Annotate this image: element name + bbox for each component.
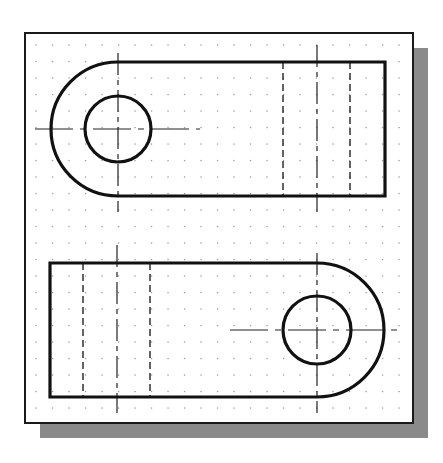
grid-dot [217, 127, 218, 128]
grid-dot [283, 44, 284, 45]
grid-dot [299, 143, 300, 144]
grid-dot [233, 143, 234, 144]
grid-dot [200, 407, 201, 408]
grid-dot [134, 226, 135, 227]
grid-dot [250, 374, 251, 375]
grid-dot [349, 374, 350, 375]
grid-dot [299, 44, 300, 45]
grid-dot [233, 94, 234, 95]
grid-dot [200, 110, 201, 111]
grid-dot [217, 341, 218, 342]
grid-dot [52, 226, 53, 227]
grid-dot [85, 110, 86, 111]
grid-dot [266, 110, 267, 111]
grid-dot [349, 242, 350, 243]
grid-dot [68, 275, 69, 276]
grid-dot [250, 308, 251, 309]
grid-dot [151, 193, 152, 194]
grid-dot [349, 358, 350, 359]
grid-dot [200, 341, 201, 342]
grid-dot [118, 226, 119, 227]
grid-dot [266, 259, 267, 260]
grid-dot [299, 308, 300, 309]
grid-dot [184, 292, 185, 293]
grid-dot [266, 77, 267, 78]
grid-dot [332, 110, 333, 111]
grid-dot [52, 391, 53, 392]
grid-dot [184, 160, 185, 161]
grid-dot [151, 110, 152, 111]
grid-dot [35, 391, 36, 392]
grid-dot [85, 226, 86, 227]
grid-dot [382, 407, 383, 408]
grid-dot [118, 325, 119, 326]
grid-dot [217, 259, 218, 260]
grid-dot [332, 127, 333, 128]
grid-dot [101, 259, 102, 260]
grid-dot [200, 160, 201, 161]
grid-dot [35, 160, 36, 161]
grid-dot [398, 391, 399, 392]
grid-dot [151, 292, 152, 293]
grid-dot [101, 341, 102, 342]
grid-dot [85, 275, 86, 276]
grid-dot [85, 193, 86, 194]
grid-dot [134, 77, 135, 78]
grid-dot [85, 407, 86, 408]
grid-dot [217, 374, 218, 375]
grid-dot [349, 292, 350, 293]
grid-dot [283, 242, 284, 243]
grid-dot [151, 275, 152, 276]
grid-dot [332, 160, 333, 161]
grid-dot [101, 61, 102, 62]
grid-dot [68, 127, 69, 128]
grid-dot [101, 77, 102, 78]
grid-dot [167, 77, 168, 78]
grid-dot [283, 391, 284, 392]
grid-dot [68, 259, 69, 260]
grid-dot [217, 391, 218, 392]
grid-dot [283, 275, 284, 276]
grid-dot [184, 275, 185, 276]
grid-dot [167, 325, 168, 326]
grid-dot [266, 44, 267, 45]
grid-dot [52, 292, 53, 293]
grid-dot [382, 242, 383, 243]
grid-dot [200, 176, 201, 177]
grid-dot [266, 127, 267, 128]
grid-dot [283, 226, 284, 227]
grid-dot [101, 143, 102, 144]
grid-dot [35, 407, 36, 408]
grid-dot [398, 374, 399, 375]
grid-dot [398, 77, 399, 78]
grid-dot [233, 275, 234, 276]
grid-dot [35, 226, 36, 227]
grid-dot [233, 226, 234, 227]
grid-dot [365, 292, 366, 293]
grid-dot [217, 308, 218, 309]
grid-dot [85, 308, 86, 309]
grid-dot [68, 226, 69, 227]
grid-dot [118, 374, 119, 375]
grid-dot [382, 209, 383, 210]
grid-dot [332, 308, 333, 309]
grid-dot [233, 193, 234, 194]
grid-dot [250, 160, 251, 161]
grid-dot [134, 275, 135, 276]
grid-dot [382, 143, 383, 144]
grid-dot [217, 160, 218, 161]
grid-dot [184, 193, 185, 194]
grid-dot [365, 226, 366, 227]
grid-dot [68, 391, 69, 392]
grid-dot [283, 259, 284, 260]
grid-dot [233, 391, 234, 392]
grid-dot [283, 292, 284, 293]
grid-dot [233, 160, 234, 161]
grid-dot [184, 391, 185, 392]
grid-dot [35, 176, 36, 177]
grid-dot [200, 308, 201, 309]
grid-dot [52, 193, 53, 194]
grid-dot [167, 110, 168, 111]
grid-dot [349, 391, 350, 392]
grid-dot [332, 94, 333, 95]
